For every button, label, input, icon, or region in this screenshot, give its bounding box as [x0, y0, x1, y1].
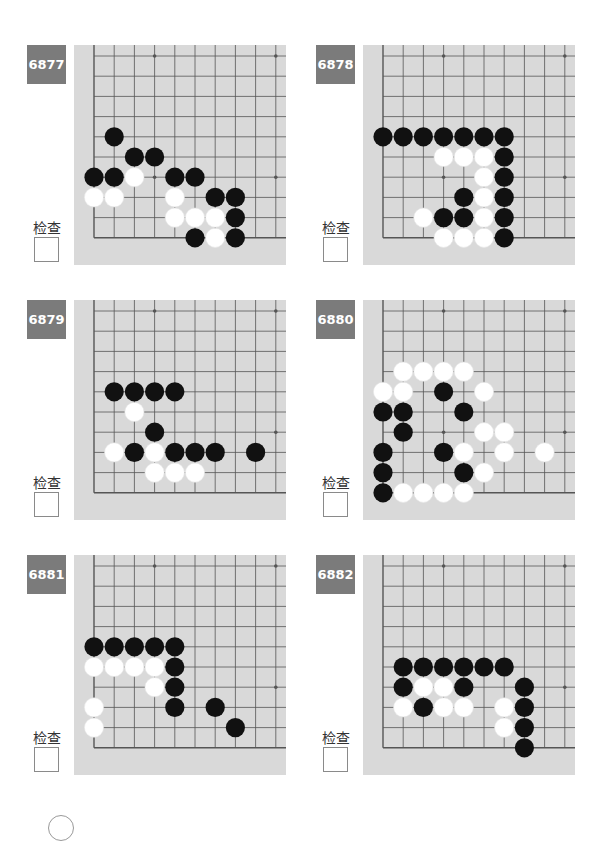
- black-stone: [394, 423, 413, 442]
- check-label: 检查: [27, 727, 66, 747]
- white-stone: [206, 228, 225, 247]
- black-stone: [145, 423, 164, 442]
- white-stone: [394, 483, 413, 502]
- white-stone: [394, 382, 413, 401]
- white-stone: [434, 483, 453, 502]
- black-stone: [165, 168, 184, 187]
- black-stone: [125, 443, 144, 462]
- problem-6877: 6877 检查: [27, 45, 289, 265]
- white-stone: [145, 657, 164, 676]
- star-point-icon: [153, 175, 157, 179]
- black-stone: [105, 382, 124, 401]
- black-stone: [165, 382, 184, 401]
- check-checkbox[interactable]: [323, 747, 348, 772]
- check-checkbox[interactable]: [323, 237, 348, 262]
- white-stone: [84, 698, 103, 717]
- white-stone: [185, 208, 204, 227]
- star-point-icon: [153, 54, 157, 58]
- white-stone: [495, 443, 514, 462]
- white-stone: [105, 443, 124, 462]
- problem-6880: 6880 检查: [316, 300, 578, 520]
- white-stone: [165, 208, 184, 227]
- black-stone: [165, 657, 184, 676]
- star-point-icon: [563, 685, 567, 689]
- white-stone: [165, 463, 184, 482]
- white-stone: [414, 678, 433, 697]
- black-stone: [454, 208, 473, 227]
- board-svg: [74, 555, 286, 775]
- white-stone: [434, 678, 453, 697]
- star-point-icon: [442, 309, 446, 313]
- black-stone: [495, 168, 514, 187]
- white-stone: [125, 168, 144, 187]
- board-svg: [74, 300, 286, 520]
- white-stone: [454, 228, 473, 247]
- black-stone: [434, 382, 453, 401]
- check-label: 检查: [27, 472, 66, 492]
- check-checkbox[interactable]: [34, 747, 59, 772]
- star-point-icon: [274, 54, 278, 58]
- white-stone: [105, 657, 124, 676]
- black-stone: [145, 637, 164, 656]
- black-stone: [226, 228, 245, 247]
- go-board: [363, 300, 575, 520]
- star-point-icon: [442, 564, 446, 568]
- go-board: [74, 555, 286, 775]
- star-point-icon: [442, 430, 446, 434]
- black-stone: [454, 188, 473, 207]
- white-stone: [454, 147, 473, 166]
- star-point-icon: [274, 309, 278, 313]
- black-stone: [125, 382, 144, 401]
- star-point-icon: [442, 54, 446, 58]
- problem-number-badge: 6877: [27, 45, 66, 84]
- problem-number-badge: 6880: [316, 300, 355, 339]
- black-stone: [145, 382, 164, 401]
- black-stone: [394, 127, 413, 146]
- black-stone: [125, 147, 144, 166]
- white-stone: [454, 483, 473, 502]
- board-svg: [363, 45, 575, 265]
- check-label: 检查: [316, 217, 355, 237]
- white-stone: [394, 698, 413, 717]
- board-svg: [363, 555, 575, 775]
- white-stone: [474, 423, 493, 442]
- black-stone: [474, 127, 493, 146]
- black-stone: [495, 228, 514, 247]
- black-stone: [495, 127, 514, 146]
- white-stone: [495, 423, 514, 442]
- white-stone: [474, 168, 493, 187]
- check-label: 检查: [316, 727, 355, 747]
- check-checkbox[interactable]: [34, 492, 59, 517]
- white-stone: [84, 657, 103, 676]
- check-checkbox[interactable]: [34, 237, 59, 262]
- white-stone: [454, 698, 473, 717]
- white-stone: [414, 483, 433, 502]
- white-stone: [495, 698, 514, 717]
- white-stone: [165, 188, 184, 207]
- page-number-circle: [48, 815, 74, 841]
- white-stone: [535, 443, 554, 462]
- black-stone: [165, 698, 184, 717]
- black-stone: [515, 698, 534, 717]
- problem-6878: 6878 检查: [316, 45, 578, 265]
- black-stone: [434, 657, 453, 676]
- white-stone: [454, 362, 473, 381]
- star-point-icon: [153, 309, 157, 313]
- black-stone: [185, 168, 204, 187]
- white-stone: [125, 402, 144, 421]
- star-point-icon: [442, 175, 446, 179]
- white-stone: [105, 188, 124, 207]
- black-stone: [394, 657, 413, 676]
- black-stone: [226, 718, 245, 737]
- star-point-icon: [274, 175, 278, 179]
- check-checkbox[interactable]: [323, 492, 348, 517]
- black-stone: [226, 208, 245, 227]
- black-stone: [454, 463, 473, 482]
- black-stone: [414, 698, 433, 717]
- star-point-icon: [563, 175, 567, 179]
- black-stone: [394, 678, 413, 697]
- white-stone: [414, 362, 433, 381]
- black-stone: [373, 463, 392, 482]
- black-stone: [84, 168, 103, 187]
- problem-6879: 6879 检查: [27, 300, 289, 520]
